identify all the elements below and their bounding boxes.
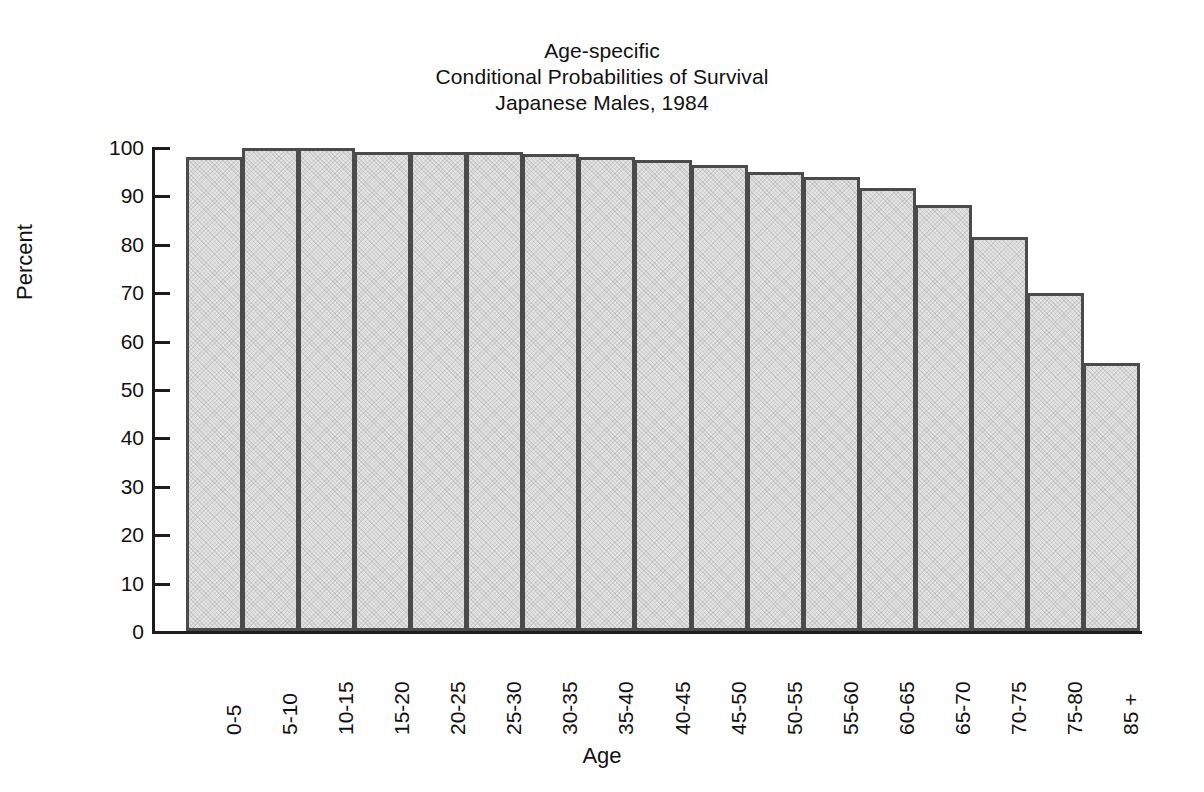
- bar: [1083, 363, 1140, 631]
- bar: [466, 152, 523, 631]
- y-axis-tick: [155, 195, 170, 198]
- x-axis-tick-label: 65-70: [952, 681, 973, 735]
- bar: [971, 237, 1028, 631]
- bar: [578, 157, 635, 631]
- y-axis-tick: [155, 534, 170, 537]
- x-axis-tick-labels: 0-55-1010-1515-2020-2525-3030-3535-4040-…: [186, 640, 1139, 750]
- bar: [691, 165, 748, 631]
- y-axis-tick-label: 40: [84, 427, 144, 448]
- y-axis-tick-label: 20: [84, 524, 144, 545]
- x-axis-tick-label: 75-80: [1064, 681, 1085, 735]
- bar: [242, 148, 299, 631]
- y-axis-tick-label: 90: [84, 185, 144, 206]
- x-axis-tick-label: 5-10: [279, 693, 300, 735]
- y-axis-title: Percent: [14, 224, 36, 300]
- x-axis-tick-label: 45-50: [728, 681, 749, 735]
- x-axis-tick-label: 25-30: [503, 681, 524, 735]
- chart-figure: Age-specific Conditional Probabilities o…: [0, 0, 1204, 792]
- y-axis-tick-label: 50: [84, 379, 144, 400]
- y-axis-tick: [155, 583, 170, 586]
- bar: [410, 152, 467, 631]
- plot-area: 1009080706050403020100: [152, 147, 1139, 633]
- x-axis-tick-label: 10-15: [335, 681, 356, 735]
- x-axis-tick-label: 60-65: [896, 681, 917, 735]
- bar: [298, 148, 355, 631]
- bar-series: [186, 147, 1139, 633]
- x-axis-tick-label: 30-35: [559, 681, 580, 735]
- bar: [186, 157, 243, 631]
- x-axis-tick-label: 70-75: [1008, 681, 1029, 735]
- y-axis-tick-label: 0: [84, 621, 144, 642]
- y-axis-tick: [155, 341, 170, 344]
- x-axis-tick-label: 20-25: [447, 681, 468, 735]
- y-axis-tick-label: 100: [84, 137, 144, 158]
- x-axis-tick-label: 85 +: [1120, 694, 1141, 735]
- y-axis-tick-label: 60: [84, 331, 144, 352]
- y-axis-tick: [155, 244, 170, 247]
- y-axis-tick: [155, 486, 170, 489]
- bar: [354, 152, 411, 631]
- y-axis-tick-labels: 1009080706050403020100: [74, 147, 144, 634]
- chart-title-line-1: Age-specific: [0, 38, 1204, 64]
- y-axis-tick: [155, 631, 170, 634]
- bar: [634, 160, 691, 631]
- bar: [803, 177, 860, 631]
- bar: [915, 205, 972, 631]
- x-axis-tick-label: 0-5: [223, 705, 244, 735]
- bar: [859, 188, 916, 631]
- x-axis-tick-label: 35-40: [615, 681, 636, 735]
- x-axis-tick-label: 50-55: [784, 681, 805, 735]
- y-axis-tick: [155, 437, 170, 440]
- y-axis-tick: [155, 147, 170, 150]
- y-axis-tick-label: 80: [84, 234, 144, 255]
- y-axis-tick: [155, 389, 170, 392]
- y-axis-tick-label: 70: [84, 282, 144, 303]
- chart-title: Age-specific Conditional Probabilities o…: [0, 38, 1204, 116]
- chart-title-line-3: Japanese Males, 1984: [0, 90, 1204, 116]
- y-axis-tick-label: 30: [84, 476, 144, 497]
- y-axis-tick-label: 10: [84, 573, 144, 594]
- x-axis-tick-label: 40-45: [672, 681, 693, 735]
- bar: [1027, 293, 1084, 631]
- bar: [747, 172, 804, 631]
- bar: [522, 154, 579, 631]
- chart-title-line-2: Conditional Probabilities of Survival: [0, 64, 1204, 90]
- x-axis-tick-label: 15-20: [391, 681, 412, 735]
- x-axis-title: Age: [0, 745, 1204, 767]
- y-axis-tick: [155, 292, 170, 295]
- x-axis-tick-label: 55-60: [840, 681, 861, 735]
